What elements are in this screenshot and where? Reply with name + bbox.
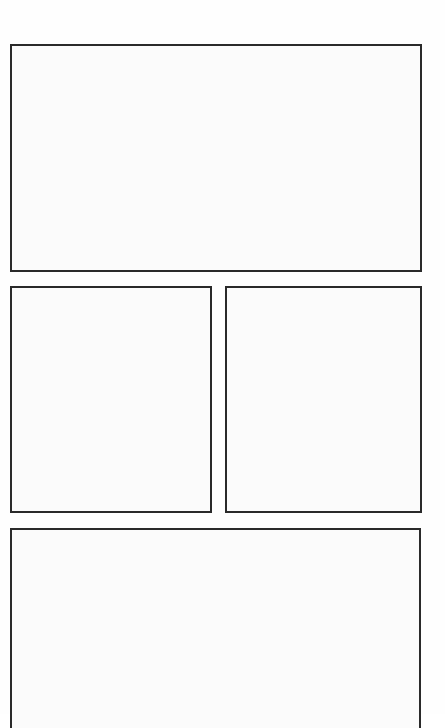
panel-bottom (10, 528, 421, 728)
panel-middle-right (225, 286, 422, 513)
panel-top (10, 44, 422, 272)
panel-middle-left (10, 286, 212, 513)
